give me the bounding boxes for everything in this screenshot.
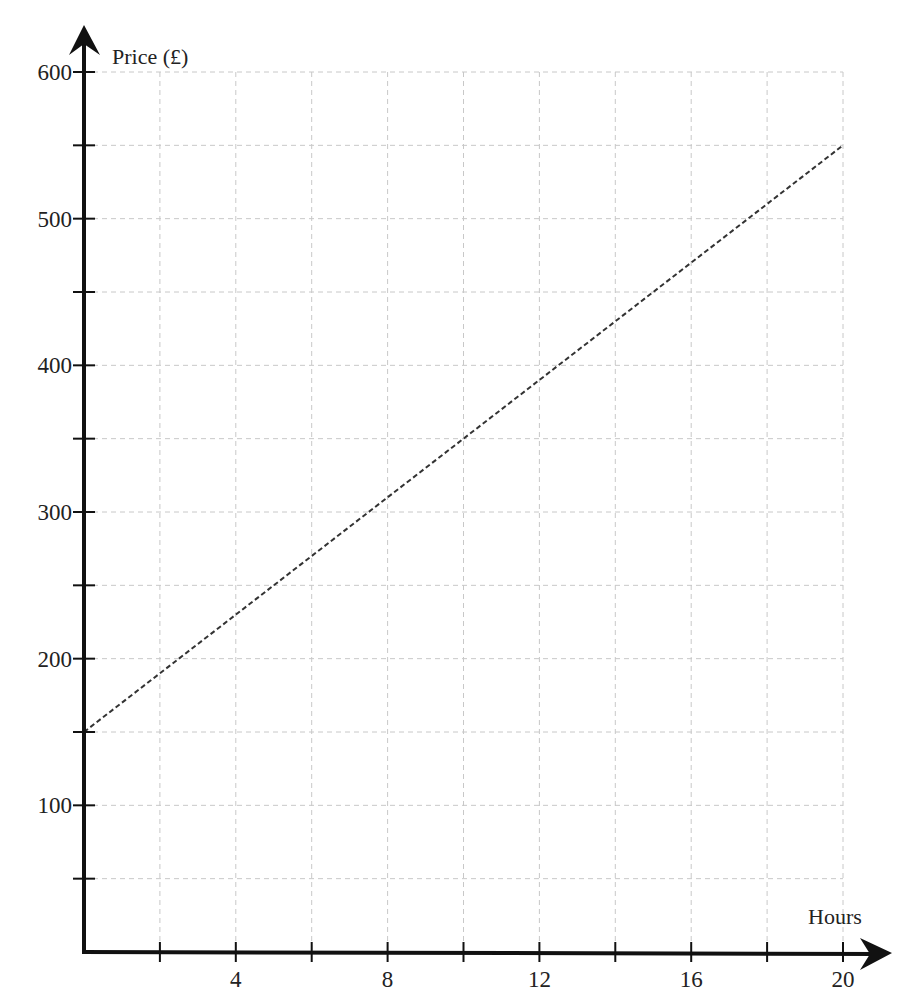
y-tick-label: 400 <box>38 353 73 378</box>
y-tick-label: 100 <box>38 793 73 818</box>
y-tick-label: 200 <box>38 647 73 672</box>
x-tick-label: 8 <box>382 967 394 992</box>
y-axis-label: Price (£) <box>112 44 188 69</box>
y-tick-label: 600 <box>38 60 73 85</box>
x-axis-label: Hours <box>808 904 862 929</box>
y-tick-label: 300 <box>38 500 73 525</box>
x-axis <box>82 952 880 954</box>
x-tick-label: 20 <box>832 967 855 992</box>
line-chart: 48121620100200300400500600 Price (£) Hou… <box>0 0 912 1001</box>
x-tick-label: 4 <box>230 967 242 992</box>
y-tick-label: 500 <box>38 207 73 232</box>
grid <box>84 72 843 952</box>
axes <box>69 25 892 970</box>
x-tick-label: 12 <box>528 967 551 992</box>
x-tick-label: 16 <box>680 967 703 992</box>
